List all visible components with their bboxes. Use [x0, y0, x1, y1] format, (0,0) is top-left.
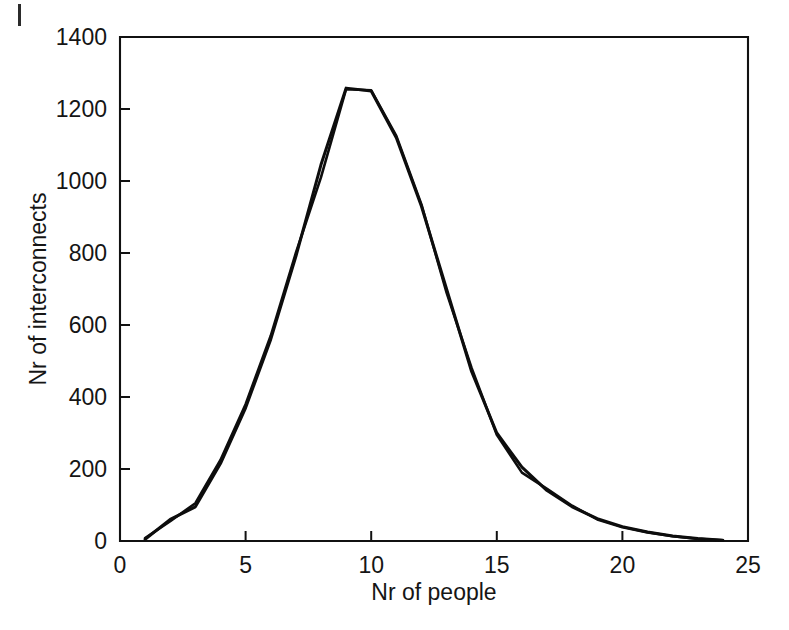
x-axis-ticks: [246, 531, 623, 541]
y-tick-label: 0: [94, 528, 107, 554]
series-line-measured: [145, 88, 723, 540]
y-axis-tick-labels: 0200400600800100012001400: [56, 24, 107, 554]
y-axis-ticks: [120, 109, 130, 469]
x-axis-title: Nr of people: [371, 579, 496, 605]
x-axis-tick-labels: 0510152025: [114, 552, 761, 578]
y-tick-label: 200: [69, 456, 107, 482]
y-tick-label: 1400: [56, 24, 107, 50]
line-chart-plot: 0200400600800100012001400 0510152025 Nr …: [0, 0, 789, 630]
y-tick-label: 400: [69, 384, 107, 410]
x-tick-label: 15: [484, 552, 510, 578]
x-tick-label: 0: [114, 552, 127, 578]
chart-figure: 0200400600800100012001400 0510152025 Nr …: [0, 0, 789, 630]
data-series-group: [145, 88, 723, 540]
y-tick-label: 600: [69, 312, 107, 338]
y-tick-label: 800: [69, 240, 107, 266]
series-line-model: [145, 89, 723, 540]
x-tick-label: 20: [610, 552, 636, 578]
plot-frame: [120, 37, 748, 541]
x-tick-label: 10: [358, 552, 384, 578]
y-tick-label: 1000: [56, 168, 107, 194]
y-axis-title: Nr of interconnects: [25, 192, 51, 385]
y-tick-label: 1200: [56, 96, 107, 122]
x-tick-label: 5: [239, 552, 252, 578]
x-tick-label: 25: [735, 552, 761, 578]
